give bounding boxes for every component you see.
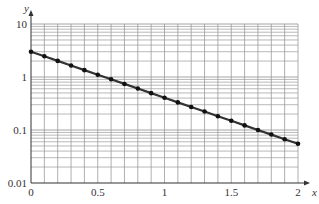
data-point [69, 63, 74, 68]
data-point [95, 72, 100, 77]
x-tick-labels: 00.511.52 [28, 186, 301, 198]
data-point [55, 59, 60, 64]
y-tick-label: 0.1 [13, 124, 27, 136]
y-tick-label: 1 [22, 71, 28, 83]
data-point [42, 54, 47, 59]
data-point [216, 114, 221, 119]
x-tick-label: 0 [28, 186, 34, 198]
data-point [282, 137, 287, 142]
y-tick-label: 10 [16, 18, 28, 30]
chart: 00.511.52 0.010.1110 x y [0, 0, 319, 204]
x-tick-label: 0.5 [91, 186, 105, 198]
data-point [296, 141, 301, 146]
data-point [82, 68, 87, 73]
x-axis-label: x [311, 186, 317, 198]
x-axis-arrow-icon [304, 181, 310, 186]
y-axis-arrow-icon [29, 10, 34, 16]
data-point [162, 95, 167, 100]
vertical-gridlines [44, 24, 298, 183]
data-point [202, 109, 207, 114]
data-point [29, 49, 34, 54]
data-point [136, 86, 141, 91]
data-point [242, 123, 247, 128]
data-point [256, 128, 261, 133]
y-tick-labels: 0.010.1110 [8, 18, 28, 189]
data-point [229, 119, 234, 124]
data-point [269, 132, 274, 137]
data-point [149, 91, 154, 96]
y-axis-label: y [23, 2, 29, 14]
data-point [189, 105, 194, 110]
y-tick-label: 0.01 [8, 177, 27, 189]
data-point [109, 77, 114, 82]
x-tick-label: 1.5 [224, 186, 238, 198]
x-tick-label: 1 [162, 186, 168, 198]
data-point [176, 100, 181, 105]
x-tick-label: 2 [295, 186, 301, 198]
data-point [122, 82, 127, 87]
